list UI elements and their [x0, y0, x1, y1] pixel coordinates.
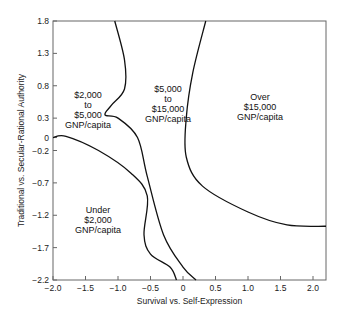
- 2000-5000-boundary: [105, 21, 196, 280]
- region-label-2000-5000: $2,000: [74, 90, 102, 100]
- x-tick-label: −1.0: [110, 283, 127, 293]
- region-label-5000-15000: $5,000: [154, 84, 182, 94]
- region-label-over-15000: $15,000: [244, 102, 277, 112]
- y-tick-label: −2.2: [32, 275, 49, 285]
- region-label-under-2000: GNP/capita: [75, 225, 121, 235]
- region-label-5000-15000: $15,000: [152, 104, 185, 114]
- region-label-2000-5000: to: [84, 100, 92, 110]
- y-tick-label: −1.2: [32, 210, 49, 220]
- y-tick-label: −0.7: [32, 178, 49, 188]
- y-tick-label: 1.8: [37, 16, 49, 26]
- over-15000-boundary: [185, 21, 326, 226]
- y-axis-label: Traditional vs. Secular-Rational Authori…: [16, 73, 26, 227]
- region-label-over-15000: Over: [250, 92, 270, 102]
- y-tick-label: 0.8: [37, 81, 49, 91]
- region-label-over-15000: GNP/capita: [237, 112, 283, 122]
- x-tick-label: 0.5: [210, 283, 222, 293]
- region-label-under-2000: $2,000: [84, 215, 112, 225]
- x-tick-label: 0: [181, 283, 186, 293]
- x-tick-label: −1.5: [77, 283, 94, 293]
- x-tick-label: −0.5: [142, 283, 159, 293]
- plot-frame: [53, 21, 326, 280]
- x-tick-label: 1.5: [275, 283, 287, 293]
- under-2000-boundary: [53, 136, 177, 280]
- y-tick-label: 1.3: [37, 48, 49, 58]
- x-axis-label: Survival vs. Self-Expression: [137, 296, 243, 306]
- region-label-2000-5000: $5,000: [74, 110, 102, 120]
- region-label-2000-5000: GNP/capita: [65, 120, 111, 130]
- region-label-under-2000: Under: [86, 205, 111, 215]
- chart: −2.0−1.5−1.0−0.500.51.01.52.01.81.30.80.…: [0, 0, 344, 319]
- region-label-5000-15000: to: [164, 94, 172, 104]
- x-tick-label: 2.0: [307, 283, 319, 293]
- y-tick-label: 0.3: [37, 113, 49, 123]
- y-tick-label: 0: [44, 133, 49, 143]
- x-tick-label: 1.0: [242, 283, 254, 293]
- y-tick-label: −0.2: [32, 146, 49, 156]
- region-label-5000-15000: GNP/capita: [145, 114, 191, 124]
- y-tick-label: −1.7: [32, 243, 49, 253]
